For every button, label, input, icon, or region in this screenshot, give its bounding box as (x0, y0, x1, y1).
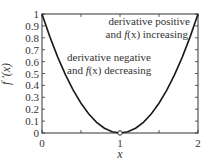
y-tick-label: 0.2 (25, 103, 39, 115)
annotation-positive-line1: derivative positive (108, 15, 190, 27)
y-tick-label: 0.5 (25, 68, 39, 80)
y-tick-label: 0.8 (25, 32, 39, 44)
x-tick-label: 2 (195, 137, 201, 149)
annotation-negative-line1: derivative negative (67, 51, 151, 63)
x-tick-label: 0 (39, 137, 45, 149)
derivative-chart: 00.10.20.30.40.50.60.70.80.91 012 deriva… (0, 0, 211, 163)
y-tick-label: 0.7 (25, 44, 39, 56)
y-tick-label: 0.6 (25, 56, 39, 68)
x-axis-label: x (116, 147, 123, 161)
y-tick-label: 0.3 (25, 91, 39, 103)
annotation-negative-line2: and f(x) decreasing (67, 64, 152, 77)
y-tick-label: 0.1 (25, 115, 39, 127)
annotation-positive-line2: and f(x) increasing (106, 28, 189, 41)
y-tick-label: 0.4 (25, 79, 39, 91)
y-axis-label: f '(x) (0, 63, 13, 85)
y-tick-label: 0.9 (25, 20, 39, 32)
y-tick-label: 1 (34, 8, 40, 20)
minimum-marker (118, 131, 122, 135)
